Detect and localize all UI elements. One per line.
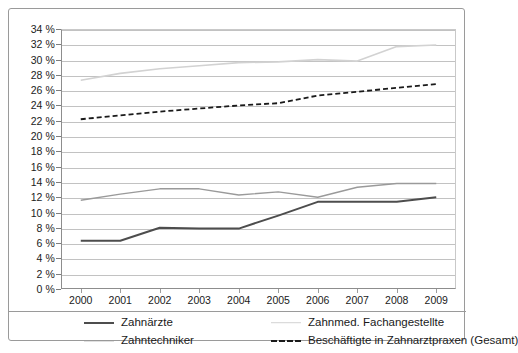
chart-legend: ZahnärzteZahntechnikerZahnmed. Fachanges…	[9, 315, 466, 353]
y-axis-tick-label: 12 %	[13, 192, 55, 202]
x-axis-tick-label: 2002	[138, 295, 182, 306]
x-axis-tick-mark	[357, 289, 358, 293]
series-layer	[61, 29, 456, 289]
x-axis-tick-label: 2004	[217, 295, 261, 306]
x-axis-tick-label: 2000	[59, 295, 103, 306]
x-axis-tick-label: 2009	[414, 295, 458, 306]
x-axis-tick-label: 2001	[98, 295, 142, 306]
legend-item[interactable]: Beschäftigte in Zahnarztpraxen (Gesamt)	[271, 333, 518, 348]
legend-line-swatch	[271, 318, 301, 328]
y-axis-tick-label: 18 %	[13, 146, 55, 156]
y-axis-tick-label: 30 %	[13, 55, 55, 65]
legend-item[interactable]: Zahnmed. Fachangestellte	[271, 315, 444, 330]
x-axis-tick-mark	[397, 289, 398, 293]
series-line-1	[81, 183, 437, 200]
legend-item-label: Beschäftigte in Zahnarztpraxen (Gesamt)	[308, 334, 518, 347]
x-axis-tick-label: 2008	[375, 295, 419, 306]
y-axis-tick-label: 6 %	[13, 238, 55, 248]
y-axis-tick-label: 28 %	[13, 70, 55, 80]
chart-plot-area: 0 %2 %4 %6 %8 %10 %12 %14 %16 %18 %20 %2…	[9, 9, 466, 295]
x-axis-tick-label: 2006	[296, 295, 340, 306]
y-axis-tick-label: 20 %	[13, 131, 55, 141]
legend-item-label: Zahnärzte	[121, 316, 173, 329]
series-line-3	[81, 84, 437, 119]
y-axis-tick-label: 16 %	[13, 162, 55, 172]
x-axis-tick-label: 2005	[256, 295, 300, 306]
legend-item-label: Zahntechniker	[121, 334, 194, 347]
legend-line-swatch	[271, 336, 301, 346]
legend-item-label: Zahnmed. Fachangestellte	[308, 316, 444, 329]
y-axis-tick-label: 24 %	[13, 100, 55, 110]
y-axis-tick-label: 8 %	[13, 223, 55, 233]
x-axis-tick-mark	[160, 289, 161, 293]
y-axis-tick-label: 22 %	[13, 116, 55, 126]
y-axis-tick-label: 4 %	[13, 253, 55, 263]
y-axis-tick-label: 32 %	[13, 39, 55, 49]
y-axis-tick-label: 34 %	[13, 24, 55, 34]
x-axis-tick-label: 2003	[177, 295, 221, 306]
series-line-0	[81, 197, 437, 241]
x-axis-tick-mark	[81, 289, 82, 293]
y-axis-tick-label: 26 %	[13, 85, 55, 95]
x-axis-tick-mark	[120, 289, 121, 293]
legend-item[interactable]: Zahnärzte	[84, 315, 173, 330]
legend-separator	[9, 311, 466, 312]
x-axis-tick-mark	[318, 289, 319, 293]
y-axis-tick-label: 10 %	[13, 208, 55, 218]
series-line-2	[81, 45, 437, 80]
x-axis-tick-mark	[278, 289, 279, 293]
legend-item[interactable]: Zahntechniker	[84, 333, 194, 348]
y-axis-tick-label: 2 %	[13, 269, 55, 279]
x-axis-tick-label: 2007	[335, 295, 379, 306]
legend-line-swatch	[84, 336, 114, 346]
y-axis-tick-mark	[56, 289, 61, 290]
legend-line-swatch	[84, 318, 114, 328]
x-axis-tick-mark	[239, 289, 240, 293]
x-axis-tick-mark	[199, 289, 200, 293]
y-axis-tick-label: 0 %	[13, 284, 55, 294]
chart-figure: 0 %2 %4 %6 %8 %10 %12 %14 %16 %18 %20 %2…	[8, 8, 465, 341]
y-axis-tick-label: 14 %	[13, 177, 55, 187]
x-axis-tick-mark	[436, 289, 437, 293]
